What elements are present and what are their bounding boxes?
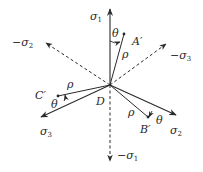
rho-label-c: ρ (66, 78, 74, 91)
theta-arc-a (110, 41, 120, 43)
neg-sigma3-label: −σ3 (170, 49, 191, 63)
theta-arc-b (149, 111, 152, 117)
neg-sigma3-axis (110, 44, 166, 85)
rho-label-b: ρ (127, 106, 135, 119)
stress-space-diagram: σ1 −σ1 σ2 −σ2 σ3 −σ3 D A′ θ ρ B′ θ ρ C′ … (0, 0, 203, 172)
point-c-label: C′ (35, 89, 46, 102)
point-c (57, 95, 60, 98)
neg-sigma2-label: −σ2 (12, 36, 33, 50)
theta-label-a: θ (112, 27, 119, 40)
center-label-d: D (95, 95, 105, 108)
theta-arc-c (64, 95, 65, 101)
neg-sigma1-label: −σ1 (117, 149, 138, 163)
sigma3-label: σ3 (40, 125, 52, 139)
sigma2-label: σ2 (170, 124, 182, 138)
diagram-canvas: σ1 −σ1 σ2 −σ2 σ3 −σ3 D A′ θ ρ B′ θ ρ C′ … (0, 0, 203, 172)
sigma1-label: σ1 (90, 10, 102, 24)
point-b-label: B′ (139, 123, 151, 136)
point-a-label: A′ (131, 35, 143, 48)
rho-label-a: ρ (121, 48, 129, 61)
sigma2-axis (110, 85, 176, 115)
point-a (123, 33, 126, 36)
point-b (147, 116, 150, 119)
neg-sigma2-axis (46, 43, 110, 85)
theta-label-c: θ (51, 98, 58, 111)
theta-label-b: θ (156, 114, 163, 127)
